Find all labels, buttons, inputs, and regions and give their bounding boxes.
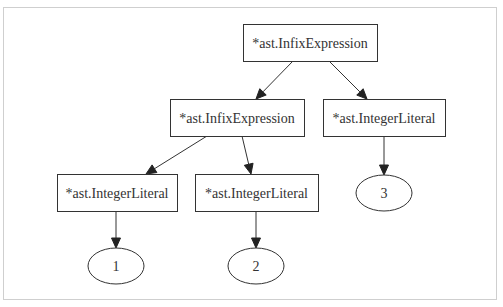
node-label: 1 — [113, 259, 120, 274]
node-label: 3 — [381, 186, 388, 201]
node-n3: *ast.IntegerLiteral — [58, 175, 178, 212]
edge-n3-n6 — [112, 211, 121, 248]
edges-layer — [112, 61, 389, 248]
node-n1: *ast.InfixExpression — [171, 100, 305, 137]
node-n6: 1 — [88, 248, 144, 284]
edge-n4-n7 — [252, 211, 261, 248]
node-n0: *ast.InfixExpression — [244, 25, 378, 62]
node-label: *ast.IntegerLiteral — [65, 186, 168, 201]
ast-tree-diagram: *ast.InfixExpression*ast.InfixExpression… — [0, 0, 503, 307]
node-label: *ast.InfixExpression — [252, 36, 367, 51]
node-n5: 3 — [356, 175, 412, 211]
node-label: *ast.IntegerLiteral — [332, 111, 435, 126]
node-n7: 2 — [228, 248, 284, 284]
arrowhead-icon — [380, 165, 389, 175]
arrowhead-icon — [112, 238, 121, 248]
edge-line — [263, 61, 293, 92]
arrowhead-icon — [146, 165, 157, 174]
node-label: *ast.InfixExpression — [179, 111, 294, 126]
edge-line — [329, 61, 360, 92]
edge-line — [154, 136, 207, 169]
node-label: 2 — [253, 259, 260, 274]
node-n2: *ast.IntegerLiteral — [324, 100, 446, 137]
arrowhead-icon — [244, 163, 253, 174]
edge-n2-n5 — [380, 136, 389, 175]
edge-n1-n3 — [146, 136, 207, 174]
arrowhead-icon — [252, 238, 261, 248]
edge-n0-n2 — [329, 61, 367, 99]
edge-n0-n1 — [256, 61, 293, 99]
edge-n1-n4 — [242, 136, 253, 174]
node-n4: *ast.IntegerLiteral — [196, 175, 319, 212]
edge-line — [242, 136, 249, 164]
node-label: *ast.IntegerLiteral — [205, 186, 308, 201]
